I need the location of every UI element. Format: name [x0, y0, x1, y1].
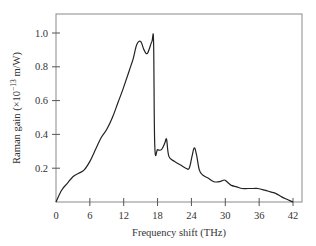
x-axis-label: Frequency shift (THz) — [132, 227, 226, 239]
x-tick-label: 12 — [118, 210, 129, 221]
x-tick-label: 42 — [288, 210, 299, 221]
x-tick-label: 0 — [53, 210, 58, 221]
plot-frame — [56, 14, 302, 202]
y-axis-label-main: Raman gain (×10 — [11, 91, 23, 164]
y-tick-label: 0.4 — [35, 129, 49, 140]
raman-gain-chart: 06121824303642 0.20.40.60.81.0 Frequency… — [0, 0, 316, 246]
x-tick-label: 24 — [186, 210, 197, 221]
x-tick-label: 18 — [152, 210, 163, 221]
x-tick-label: 36 — [254, 210, 265, 221]
y-tick-label: 0.8 — [35, 61, 48, 72]
y-axis-label-unit: m/W) — [11, 52, 23, 80]
y-tick-label: 0.2 — [35, 163, 48, 174]
x-axis-ticks: 06121824303642 — [53, 198, 298, 221]
raman-gain-curve — [56, 34, 293, 202]
y-tick-label: 1.0 — [35, 28, 48, 39]
x-tick-label: 6 — [87, 210, 92, 221]
y-axis-label-exponent: −13 — [9, 79, 18, 91]
y-tick-label: 0.6 — [35, 95, 48, 106]
y-axis-label: Raman gain (×10−13 m/W) — [9, 52, 23, 164]
x-tick-label: 30 — [220, 210, 231, 221]
